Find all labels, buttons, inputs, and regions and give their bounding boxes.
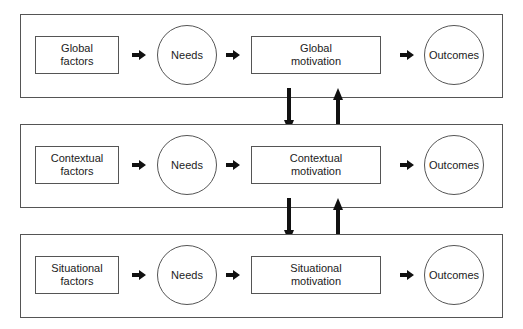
global-outcomes-circle: Outcomes bbox=[424, 25, 484, 85]
contextual-needs-circle: Needs bbox=[157, 135, 217, 195]
arrow-right-icon bbox=[226, 270, 240, 280]
global-motivation-box: Global motivation bbox=[251, 36, 381, 74]
panel-situational: Situational factors Needs Situational mo… bbox=[20, 234, 503, 318]
situational-motivation-box: Situational motivation bbox=[251, 256, 381, 294]
global-needs-label: Needs bbox=[171, 49, 203, 61]
situational-outcomes-circle: Outcomes bbox=[424, 245, 484, 305]
panel-contextual: Contextual factors Needs Contextual moti… bbox=[20, 124, 503, 208]
arrow-right-icon bbox=[132, 270, 146, 280]
contextual-outcomes-circle: Outcomes bbox=[424, 135, 484, 195]
arrow-right-icon bbox=[400, 270, 414, 280]
contextual-motivation-box: Contextual motivation bbox=[251, 146, 381, 184]
contextual-factors-box: Contextual factors bbox=[35, 146, 119, 184]
global-motivation-label: Global motivation bbox=[291, 42, 341, 68]
arrow-right-icon bbox=[132, 50, 146, 60]
contextual-needs-label: Needs bbox=[171, 159, 203, 171]
global-factors-box: Global factors bbox=[35, 36, 119, 74]
global-needs-circle: Needs bbox=[157, 25, 217, 85]
situational-needs-label: Needs bbox=[171, 269, 203, 281]
situational-outcomes-label: Outcomes bbox=[429, 269, 479, 281]
situational-factors-label: Situational factors bbox=[51, 262, 102, 288]
contextual-factors-label: Contextual factors bbox=[51, 152, 104, 178]
contextual-outcomes-label: Outcomes bbox=[429, 159, 479, 171]
contextual-motivation-label: Contextual motivation bbox=[290, 152, 343, 178]
global-factors-label: Global factors bbox=[60, 42, 93, 68]
situational-needs-circle: Needs bbox=[157, 245, 217, 305]
arrow-right-icon bbox=[400, 50, 414, 60]
global-outcomes-label: Outcomes bbox=[429, 49, 479, 61]
arrow-right-icon bbox=[132, 160, 146, 170]
situational-motivation-label: Situational motivation bbox=[290, 262, 341, 288]
panel-global: Global factors Needs Global motivation O… bbox=[20, 14, 503, 98]
situational-factors-box: Situational factors bbox=[35, 256, 119, 294]
arrow-right-icon bbox=[226, 50, 240, 60]
arrow-right-icon bbox=[400, 160, 414, 170]
arrow-right-icon bbox=[226, 160, 240, 170]
